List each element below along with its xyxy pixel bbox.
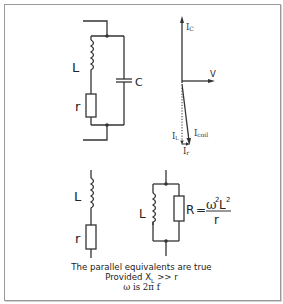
parallel-resistance-formula: R = ω 2 L 2 r: [186, 196, 231, 227]
v-label: V: [210, 69, 216, 79]
formula-equals: =: [196, 203, 206, 217]
top-circuit: [83, 21, 132, 140]
ic-arrowhead-icon: [180, 16, 184, 23]
v-arrowhead-icon: [208, 79, 215, 83]
capacitor-label: C: [135, 76, 143, 89]
junction-dot: [164, 182, 168, 186]
series-resistor-label: r: [75, 231, 81, 246]
series-equivalent-circuit: [86, 170, 96, 258]
caption-line-1: The parallel equivalents are true: [0, 262, 283, 272]
ic-label: IC: [186, 22, 194, 32]
icoil-phasor-arrow: [182, 84, 189, 141]
top-inductor-label: L: [72, 60, 80, 75]
formula-denominator: r: [214, 213, 219, 227]
formula-r: R: [186, 203, 194, 217]
series-inductor-label: L: [74, 189, 82, 204]
top-resistor-label: r: [75, 99, 81, 114]
formula-l: L: [219, 198, 226, 212]
icoil-label: Icoil: [194, 128, 208, 138]
resistor-icon: [86, 94, 96, 117]
parallel-inductor-label: L: [139, 207, 146, 221]
junction-dot: [105, 34, 109, 38]
inductor-coil-icon: [153, 193, 156, 225]
parallel-equivalent-circuit: [153, 170, 184, 256]
formula-l-exp: 2: [226, 196, 230, 204]
il-label: IL: [172, 131, 179, 141]
ir-label: Ir: [183, 146, 189, 156]
resistor-icon: [174, 196, 184, 221]
inductor-coil-icon: [91, 40, 94, 72]
bottom-lead-wire: [83, 125, 107, 140]
junction-dot: [105, 123, 109, 127]
resistor-icon: [86, 225, 96, 249]
junction-dot: [164, 239, 168, 243]
inductor-coil-icon: [91, 178, 94, 210]
phasor-diagram: [182, 20, 212, 144]
top-lead-wire: [83, 21, 107, 36]
caption-line-3: ω is 2π f: [0, 282, 283, 292]
circuit-diagram: L r C IC V IL Icoil Ir L r L R = ω 2 L 2…: [0, 0, 283, 304]
